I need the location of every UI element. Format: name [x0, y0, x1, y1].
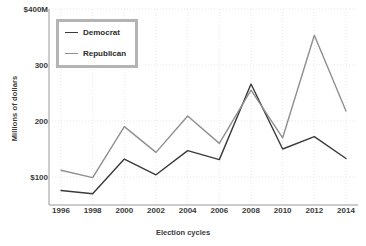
- x-tick-label: 2004: [179, 206, 197, 215]
- legend-label-republican: Republican: [83, 49, 126, 58]
- x-tick-label: 1996: [52, 206, 70, 215]
- x-tick-label: 2010: [274, 206, 292, 215]
- x-tick-label: 2006: [210, 206, 228, 215]
- x-axis-tick-labels: 1996199820002002200420062008201020122014: [0, 206, 366, 222]
- x-axis-title: Election cycles: [0, 228, 366, 237]
- legend-label-democrat: Democrat: [83, 28, 120, 37]
- legend-line-icon-democrat: [65, 32, 78, 33]
- x-tick-label: 1998: [84, 206, 102, 215]
- x-tick-label: 2012: [305, 206, 323, 215]
- legend-item-republican: Republican: [59, 43, 135, 64]
- x-tick-label: 2000: [115, 206, 133, 215]
- x-tick-label: 2014: [337, 206, 355, 215]
- chart-legend: Democrat Republican: [56, 19, 138, 68]
- chart-container: Millions of dollars $100200300$400M Demo…: [0, 0, 366, 246]
- legend-item-democrat: Democrat: [59, 22, 135, 43]
- x-tick-label: 2008: [242, 206, 260, 215]
- x-tick-label: 2002: [147, 206, 165, 215]
- legend-line-icon-republican: [65, 53, 78, 54]
